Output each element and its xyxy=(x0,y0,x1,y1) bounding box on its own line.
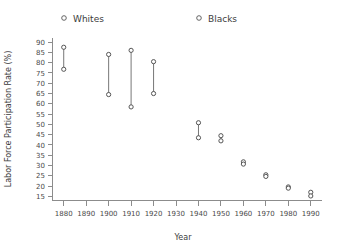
data-point-whites xyxy=(309,194,313,198)
data-point-whites xyxy=(264,174,268,178)
y-tick-label: 50 xyxy=(36,121,45,129)
data-point-whites xyxy=(129,105,133,109)
legend-marker-blacks xyxy=(197,16,202,21)
labor-force-participation-chart: Whites Blacks 15202530354045505560657075… xyxy=(0,0,339,251)
legend-marker-whites xyxy=(62,16,67,21)
y-tick-label: 60 xyxy=(36,100,45,108)
y-tick-label: 45 xyxy=(36,131,45,139)
y-tick-label: 15 xyxy=(36,193,45,201)
y-tick-label: 20 xyxy=(36,183,45,191)
y-tick-label: 35 xyxy=(36,152,45,160)
y-tick-label: 90 xyxy=(36,39,45,47)
legend-label-blacks: Blacks xyxy=(208,14,237,24)
data-point-blacks xyxy=(129,48,133,52)
x-axis: 1880189019001910192019301940195019601970… xyxy=(55,201,320,219)
x-tick-label: 1900 xyxy=(100,210,118,218)
x-tick-label: 1940 xyxy=(190,210,208,218)
x-tick-label: 1960 xyxy=(234,210,252,218)
y-tick-label: 75 xyxy=(36,70,45,78)
y-tick-label: 70 xyxy=(36,80,45,88)
data-point-blacks xyxy=(151,60,155,64)
y-axis: 15202530354045505560657075808590 xyxy=(36,39,52,201)
x-tick-label: 1950 xyxy=(212,210,230,218)
x-tick-label: 1920 xyxy=(145,210,163,218)
data-point-blacks xyxy=(107,52,111,56)
y-axis-title: Labor Force Participation Rate (%) xyxy=(4,51,13,188)
data-point-blacks xyxy=(196,121,200,125)
x-tick-label: 1930 xyxy=(167,210,185,218)
legend-label-whites: Whites xyxy=(73,14,104,24)
y-tick-label: 30 xyxy=(36,162,45,170)
data-point-whites xyxy=(107,92,111,96)
y-tick-label: 80 xyxy=(36,59,45,67)
x-tick-label: 1970 xyxy=(257,210,275,218)
y-tick-label: 25 xyxy=(36,172,45,180)
data-point-whites xyxy=(62,67,66,71)
data-point-blacks xyxy=(62,45,66,49)
x-tick-label: 1990 xyxy=(302,210,320,218)
x-axis-title: Year xyxy=(174,233,193,242)
x-tick-label: 1980 xyxy=(279,210,297,218)
y-tick-label: 85 xyxy=(36,49,45,57)
data-point-whites xyxy=(241,162,245,166)
data-point-whites xyxy=(286,186,290,190)
x-tick-label: 1880 xyxy=(55,210,73,218)
legend: Whites Blacks xyxy=(62,14,238,24)
y-tick-label: 65 xyxy=(36,90,45,98)
data-point-whites xyxy=(219,139,223,143)
y-tick-label: 40 xyxy=(36,142,45,150)
chart-container: Whites Blacks 15202530354045505560657075… xyxy=(0,0,339,251)
data-point-whites xyxy=(151,91,155,95)
y-tick-label: 55 xyxy=(36,111,45,119)
x-tick-label: 1910 xyxy=(122,210,140,218)
data-point-whites xyxy=(196,136,200,140)
data-points-group xyxy=(62,45,313,198)
data-point-blacks xyxy=(219,134,223,138)
x-tick-label: 1890 xyxy=(77,210,95,218)
